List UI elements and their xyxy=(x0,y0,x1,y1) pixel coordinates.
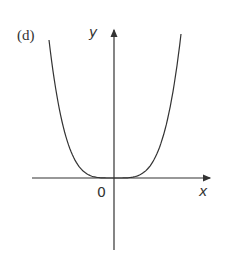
curve xyxy=(49,34,181,178)
graph: (d) y x 0 xyxy=(0,0,225,260)
x-axis-label: x xyxy=(198,183,208,199)
y-axis-label: y xyxy=(88,24,98,40)
origin-label: 0 xyxy=(97,184,106,200)
panel-label: (d) xyxy=(17,27,35,44)
